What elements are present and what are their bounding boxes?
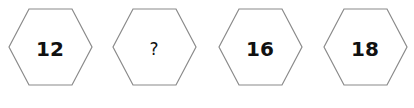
hexagon-1: 12	[7, 0, 93, 96]
hexagon-value: 12	[7, 37, 93, 61]
hexagon-value-unknown: ?	[111, 37, 197, 61]
hexagon-3: 16	[217, 0, 303, 96]
hexagon-2: ?	[111, 0, 197, 96]
hexagon-4: 18	[322, 0, 408, 96]
hexagon-value: 18	[322, 37, 408, 61]
hexagon-value: 16	[217, 37, 303, 61]
